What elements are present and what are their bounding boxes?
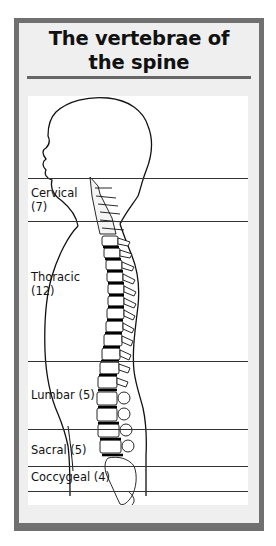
diagram-frame: The vertebrae of the spine <box>14 18 264 531</box>
title-divider <box>27 76 251 79</box>
label-thoracic-name: Thoracic <box>31 270 80 284</box>
label-thoracic: Thoracic (12) <box>31 270 80 298</box>
diagram-title: The vertebrae of the spine <box>19 27 259 75</box>
illustration-panel: Cervical (7) Thoracic (12) Lumbar (5) Sa… <box>28 96 248 505</box>
divider-sacral-coccygeal <box>28 466 248 467</box>
divider-thoracic-lumbar <box>28 361 248 362</box>
label-coccygeal: Coccygeal (4) <box>31 470 110 484</box>
vertebrae <box>90 177 136 505</box>
title-line-2: the spine <box>19 51 259 75</box>
divider-cervical-thoracic <box>28 221 248 222</box>
label-cervical-count: (7) <box>31 200 77 214</box>
label-cervical: Cervical (7) <box>31 186 77 214</box>
label-lumbar: Lumbar (5) <box>31 388 95 402</box>
divider-cervical-top <box>28 178 248 179</box>
label-cervical-name: Cervical <box>31 186 77 200</box>
title-line-1: The vertebrae of <box>19 27 259 51</box>
label-sacral: Sacral (5) <box>31 443 87 457</box>
divider-lumbar-sacral <box>28 429 248 430</box>
divider-coccygeal-bottom <box>28 491 248 492</box>
label-thoracic-count: (12) <box>31 284 80 298</box>
